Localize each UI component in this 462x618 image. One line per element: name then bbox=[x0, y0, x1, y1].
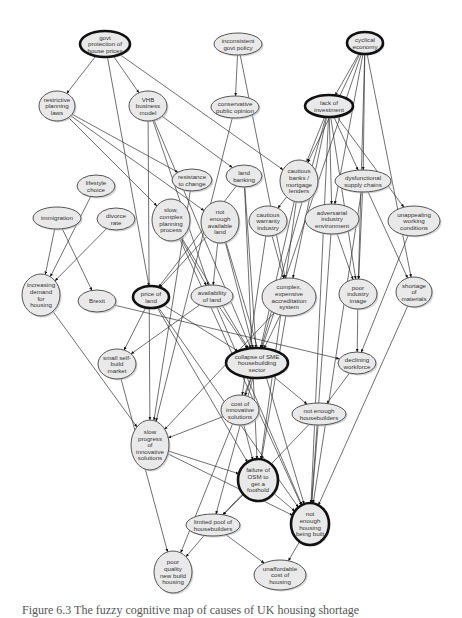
edge-not_enough_housing-to-unaffordable_cost bbox=[288, 542, 299, 561]
edge-vhb_model-to-slow_progress bbox=[148, 121, 150, 420]
node-label: lifestylechoice bbox=[86, 179, 107, 193]
node-label: inconsistentgovt policy bbox=[222, 37, 255, 51]
edge-dysfunctional_supply-to-not_enough_housing bbox=[313, 192, 361, 503]
edge-failure_osm-to-limited_pool bbox=[223, 495, 243, 515]
node-label: immigration bbox=[41, 214, 74, 221]
edge-restrictive_planning-to-resistance_change bbox=[72, 114, 178, 172]
node-govt-protection: govtprotection ofhouse prices bbox=[80, 31, 132, 59]
edge-cost_innovative-to-slow_progress bbox=[168, 417, 223, 438]
edge-lack_investment-to-adversarial_env bbox=[329, 117, 331, 204]
edge-cost_innovative-to-failure_osm bbox=[244, 425, 253, 460]
edge-cautious_banks-to-cautious_warranty bbox=[278, 197, 287, 208]
node-cautious-warranty: cautiouswarrantyindustry bbox=[249, 206, 289, 238]
node-unappealing-conditions: unappealingworkingconditions bbox=[388, 206, 442, 238]
edge-failure_osm-to-not_enough_housing bbox=[274, 493, 295, 511]
node-inconsistent-policy: inconsistentgovt policy bbox=[214, 33, 264, 57]
node-slow-progress: slowprogressofinnovativesolutions bbox=[131, 420, 171, 472]
edge-cyclical_economy-to-lack_investment bbox=[335, 53, 359, 95]
node-unaffordable-cost: unaffordablecost ofhousing bbox=[254, 560, 308, 592]
node-small-selfbuild: small self-buildmarket bbox=[98, 349, 138, 381]
node-label: cautiouswarrantyindustry bbox=[255, 211, 281, 231]
node-poor-quality: poorqualitynew buildhousing bbox=[154, 551, 194, 595]
node-limited-pool: limited pool ofhousebuilders bbox=[186, 514, 242, 538]
node-failure-osm: failure ofOSM toget afoothold bbox=[238, 459, 280, 503]
edge-immigration-to-brexit bbox=[62, 229, 92, 291]
figure-caption: Figure 6.3 The fuzzy cognitive map of ca… bbox=[22, 603, 359, 618]
node-resistance-change: resistanceto change bbox=[172, 169, 214, 193]
edge-lack_investment-to-unappealing_conditions bbox=[337, 116, 404, 207]
edge-price_of_land-to-collapse_sme bbox=[164, 305, 238, 351]
node-label: cautiousbanks /mortgagelenders bbox=[286, 167, 313, 194]
node-label: resistanceto change bbox=[178, 173, 207, 187]
node-conservative-opinion: conservativepublic opinion bbox=[211, 96, 261, 120]
node-cautious-banks: cautiousbanks /mortgagelenders bbox=[280, 160, 320, 204]
node-not-enough-housing: notenoughhousingbeing built bbox=[291, 503, 331, 547]
edge-complex_accreditation-to-failure_osm bbox=[262, 316, 286, 459]
node-immigration: immigration bbox=[33, 207, 83, 231]
edge-vhb_model-to-land_banking bbox=[162, 116, 232, 167]
edge-immigration-to-increasing_demand bbox=[45, 229, 54, 275]
edge-price_of_land-to-small_selfbuild bbox=[124, 308, 146, 351]
node-collapse-sme: collapse of SMEhousebuildingsector bbox=[226, 348, 290, 380]
edge-limited_pool-to-poor_quality bbox=[186, 535, 204, 556]
edge-limited_pool-to-unaffordable_cost bbox=[226, 535, 264, 563]
edge-inconsistent_policy-to-conservative_opinion bbox=[236, 55, 238, 96]
node-brexit: Brexit bbox=[78, 290, 118, 314]
edge-not_enough_land-to-price_of_land bbox=[160, 237, 207, 288]
node-not-enough-housebuilders: not enoughhousebuilders bbox=[292, 403, 348, 427]
node-complex-accreditation: complex,expensiveaccreditationsystem bbox=[262, 278, 318, 318]
node-vhb-model: VHBbusinessmodel bbox=[129, 91, 169, 123]
node-poor-image: poorindustryimage bbox=[339, 279, 379, 311]
node-not-enough-land: notenoughavailableland bbox=[201, 201, 241, 245]
node-land-banking: landbanking bbox=[226, 165, 264, 189]
nodes-layer: govtprotection ofhouse pricesinconsisten… bbox=[22, 31, 442, 595]
edge-poor_image-to-declining_workforce bbox=[357, 309, 358, 352]
node-label: conservativepublic opinion bbox=[216, 100, 254, 114]
node-declining-workforce: decliningworkforce bbox=[338, 352, 378, 376]
edge-not_enough_land-to-availability_land bbox=[213, 243, 218, 285]
node-label: dysfunctionalsupply chains bbox=[344, 174, 382, 188]
edge-govt_protection-to-vhb_model bbox=[114, 56, 139, 93]
node-label: cyclicaleconomy bbox=[352, 36, 378, 50]
node-adversarial-env: adversarialindustryenvironment bbox=[305, 204, 361, 236]
node-label: not enoughhousebuilders bbox=[300, 407, 339, 421]
node-label: failure ofOSM toget afoothold bbox=[246, 466, 270, 493]
node-shortage-materials: shortageofmaterials bbox=[396, 277, 434, 309]
node-label: decliningworkforce bbox=[343, 356, 371, 370]
node-cost-innovative: cost ofinnovativesolutions bbox=[221, 395, 261, 427]
node-price-of-land: price ofland bbox=[133, 286, 171, 310]
edge-slow_planning-to-availability_land bbox=[181, 238, 207, 285]
edge-cyclical_economy-to-poor_image bbox=[358, 54, 364, 279]
node-label: increasingdemandforhousing bbox=[27, 281, 56, 308]
edge-slow_progress-to-failure_osm bbox=[168, 451, 239, 474]
edge-price_of_land-to-failure_osm bbox=[157, 307, 247, 462]
node-availability-land: availabilityof land bbox=[191, 285, 235, 309]
node-label: limited pool ofhousebuilders bbox=[194, 518, 233, 532]
edge-govt_protection-to-restrictive_planning bbox=[67, 56, 96, 93]
edge-divorce_rate-to-increasing_demand bbox=[55, 229, 107, 281]
node-lifestyle-choice: lifestylechoice bbox=[77, 175, 117, 199]
node-label: Brexit bbox=[89, 297, 105, 304]
node-slow-planning: slow,complexplanningprocess bbox=[152, 199, 192, 243]
node-dysfunctional-supply: dysfunctionalsupply chains bbox=[335, 170, 393, 194]
node-divorce-rate: divorcerate bbox=[97, 208, 137, 232]
edge-adversarial_env-to-poor_image bbox=[337, 234, 353, 280]
node-cyclical-economy: cyclicaleconomy bbox=[347, 32, 385, 56]
node-restrictive-planning: restrictiveplanninglaws bbox=[39, 91, 77, 123]
node-lack-investment: lack ofinvestment bbox=[305, 95, 355, 119]
edge-collapse_sme-to-not_enough_housebuilders bbox=[273, 376, 307, 404]
edge-declining_workforce-to-not_enough_housebuilders bbox=[327, 373, 350, 403]
